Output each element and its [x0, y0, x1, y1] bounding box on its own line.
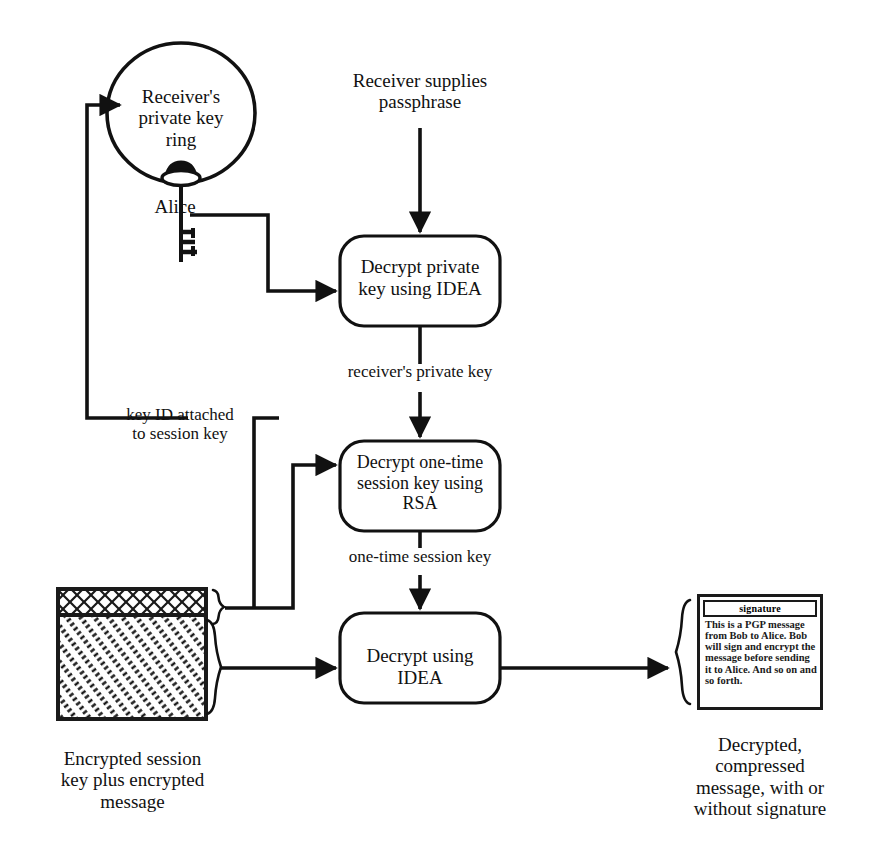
keyring-key-label: Alice — [142, 196, 208, 217]
passphrase-input-label: Receiver supplies passphrase — [325, 70, 515, 113]
pgp-decryption-diagram: Receiver's private key ring Alice Receiv… — [0, 0, 870, 855]
edge-session-key-to-rsa — [225, 418, 336, 608]
document-body-text: This is a PGP message from Bob to Alice.… — [703, 619, 817, 686]
edge-label-key-id: key ID attached to session key — [80, 405, 280, 443]
encrypted-block-graphic — [58, 589, 206, 719]
edge-alice-key-to-decrypt-private-key — [190, 215, 336, 291]
process-label-decrypt-session-key: Decrypt one-time session key using RSA — [342, 452, 498, 514]
encrypted-block-caption: Encrypted session key plus encrypted mes… — [30, 748, 235, 812]
private-key-ring-shape — [107, 43, 255, 262]
document-signature-header: signature — [703, 600, 817, 617]
encrypted-session-key-segment — [58, 589, 206, 615]
process-label-decrypt-private-key: Decrypt private key using IDEA — [344, 256, 496, 300]
keyring-label: Receiver's private key ring — [110, 86, 252, 150]
edge-label-private-key: receiver's private key — [310, 362, 530, 381]
output-document: signature This is a PGP message from Bob… — [697, 594, 823, 710]
process-label-decrypt-using-idea: Decrypt using IDEA — [344, 645, 496, 689]
output-document-caption: Decrypted, compressed message, with or w… — [655, 734, 865, 819]
encrypted-message-segment — [58, 615, 206, 719]
edge-label-session-key: one-time session key — [320, 547, 520, 566]
brace-output-message — [676, 600, 690, 704]
brace-encrypted-message — [207, 620, 221, 714]
brace-session-key — [213, 590, 224, 624]
